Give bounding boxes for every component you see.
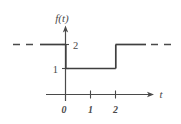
function-curve-group <box>13 45 172 69</box>
y-axis-label: f(t) <box>55 12 69 25</box>
x-axis-label: t <box>159 88 163 100</box>
figure-canvas: f(t) t 2 1 0 1 2 <box>0 0 181 124</box>
axes-group <box>46 26 154 102</box>
y-value-label-two: 2 <box>73 40 78 51</box>
x-tick-label-one: 1 <box>88 104 93 115</box>
x-tick-label-origin: 0 <box>62 104 67 115</box>
y-value-label-one: 1 <box>53 64 58 75</box>
x-tick-label-two: 2 <box>112 104 118 115</box>
step-function-figure: f(t) t 2 1 0 1 2 <box>0 0 181 124</box>
